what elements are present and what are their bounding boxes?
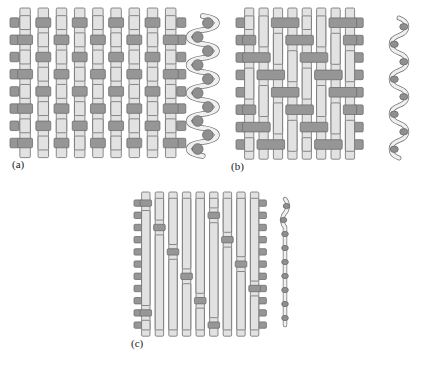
weft-tab-right: [258, 237, 266, 243]
weft-float: [286, 105, 314, 115]
warp-yarn: [38, 8, 49, 158]
cross-section-yarn: [282, 231, 289, 236]
warp-float: [331, 33, 340, 64]
twill-weave-cross-section: [382, 12, 416, 162]
weft-float: [243, 35, 256, 45]
weft-tab-left: [10, 52, 19, 62]
warp-float: [20, 50, 31, 64]
weft-float: [167, 249, 179, 255]
warp-float: [111, 33, 122, 47]
warp-float: [111, 67, 122, 81]
warp-float: [38, 136, 49, 150]
weft-tab-right: [354, 53, 363, 63]
weft-tab-right: [177, 121, 186, 131]
warp-float: [237, 198, 245, 256]
warp-yarn: [129, 8, 140, 158]
weft-float: [54, 35, 69, 45]
weave-figure: (a) (b) (c): [0, 0, 436, 365]
weft-float: [72, 121, 87, 131]
weft-tab-right: [258, 273, 266, 279]
warp-float: [259, 16, 268, 47]
weft-tab-right: [354, 140, 363, 150]
weft-float: [36, 121, 51, 131]
warp-float: [129, 50, 140, 64]
weft-tab-left: [236, 88, 245, 98]
warp-float: [111, 136, 122, 150]
weft-float: [300, 122, 328, 132]
plain-weave-grid: [10, 8, 190, 158]
weft-float: [343, 105, 356, 115]
warp-float: [259, 86, 268, 117]
cross-section-yarn: [282, 315, 289, 320]
weft-float: [109, 18, 124, 28]
weft-float: [163, 69, 178, 79]
weft-float: [329, 18, 357, 28]
cross-section-yarn: [192, 60, 203, 71]
warp-yarn: [165, 8, 176, 158]
panel-twill-weave: [236, 8, 362, 160]
warp-float: [273, 103, 282, 134]
weft-float: [243, 122, 271, 132]
weft-float: [243, 53, 271, 63]
satin-weave-grid: [134, 192, 266, 334]
cross-section-yarn: [390, 146, 398, 152]
weft-float: [109, 52, 124, 62]
weft-tab-left: [134, 285, 142, 291]
warp-float: [142, 320, 150, 330]
weft-float: [54, 69, 69, 79]
warp-float: [56, 84, 67, 98]
cross-section-yarn: [192, 144, 203, 155]
weft-float: [163, 35, 178, 45]
warp-float: [196, 198, 204, 293]
warp-float: [165, 50, 176, 64]
warp-float: [20, 119, 31, 133]
weft-float: [329, 88, 357, 98]
warp-float: [245, 68, 254, 99]
plain-weave-cross-section: [193, 10, 229, 160]
warp-float: [129, 16, 140, 30]
warp-float: [129, 119, 140, 133]
cross-section-yarn: [283, 203, 290, 208]
weft-float: [145, 52, 160, 62]
weft-float: [90, 138, 105, 148]
warp-float: [288, 51, 297, 82]
weft-tab-left: [134, 249, 142, 255]
warp-float: [223, 198, 231, 232]
warp-float: [317, 86, 326, 117]
weft-tab-right: [177, 52, 186, 62]
warp-float: [182, 284, 190, 330]
weft-tab-left: [10, 121, 19, 131]
weft-tab-right: [258, 261, 266, 267]
weft-float: [257, 140, 285, 150]
warp-float: [331, 103, 340, 134]
warp-yarn: [331, 8, 340, 159]
cross-section-yarn: [203, 102, 214, 113]
warp-yarn: [93, 8, 104, 158]
weft-tab-left: [10, 18, 19, 28]
warp-float: [93, 16, 104, 30]
cross-section-yarn: [203, 46, 214, 57]
weft-tab-left: [236, 140, 245, 150]
warp-yarn: [56, 8, 67, 158]
cross-section-yarn: [282, 259, 289, 264]
warp-float: [245, 138, 254, 152]
warp-float: [169, 198, 177, 244]
weft-tab-right: [258, 212, 266, 218]
cross-section-yarn: [400, 59, 408, 65]
weft-float: [109, 87, 124, 97]
warp-float: [302, 68, 311, 99]
weft-float: [90, 104, 105, 114]
weft-float: [140, 310, 152, 316]
weft-float: [90, 69, 105, 79]
weft-float: [72, 87, 87, 97]
weft-float: [18, 35, 33, 45]
warp-float: [38, 67, 49, 81]
twill-weave-grid: [236, 8, 362, 160]
weft-float: [208, 212, 220, 218]
weft-tab-right: [258, 224, 266, 230]
cross-section-yarn: [282, 273, 289, 278]
weft-float: [257, 70, 285, 80]
warp-float: [38, 102, 49, 116]
warp-float: [93, 119, 104, 133]
warp-float: [147, 102, 158, 116]
